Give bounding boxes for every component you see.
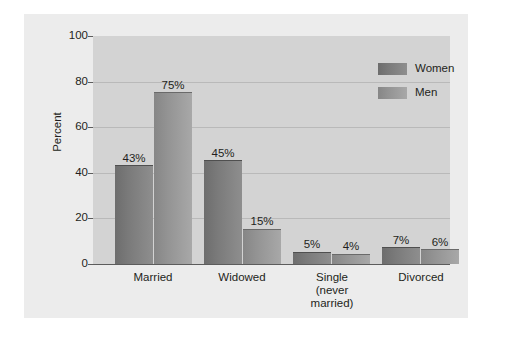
bar-men-widowed — [243, 229, 281, 264]
bar-chart-figure: 100 80 60 40 20 0 Percent 43% 75% 45% 15… — [0, 0, 509, 348]
value-label-women-single: 5% — [304, 239, 321, 251]
y-tick-label-20: 20 — [54, 213, 88, 225]
value-label-men-divorced: 6% — [432, 237, 449, 249]
legend-swatch-women-icon — [378, 63, 407, 75]
bar-women-single — [293, 252, 331, 264]
y-axis-label: Percent — [51, 72, 63, 192]
bar-men-divorced — [421, 249, 459, 264]
y-tick-label-0: 0 — [54, 258, 88, 270]
bar-women-divorced — [382, 247, 420, 264]
y-tick-label-100: 100 — [54, 30, 88, 42]
bar-men-married — [154, 92, 192, 264]
x-category-label-divorced: Divorced — [366, 271, 476, 284]
bar-men-single — [332, 254, 370, 264]
gridline-60 — [93, 127, 450, 128]
y-tick-mark-60 — [88, 127, 93, 128]
legend-label-women: Women — [415, 63, 454, 75]
legend-swatch-men-icon — [378, 87, 407, 99]
y-tick-mark-0 — [88, 264, 93, 265]
value-label-women-divorced: 7% — [393, 235, 410, 247]
y-tick-mark-40 — [88, 173, 93, 174]
x-axis-line — [93, 264, 450, 265]
value-label-women-married: 43% — [122, 153, 145, 165]
value-label-men-widowed: 15% — [250, 216, 273, 228]
legend-label-men: Men — [415, 87, 437, 99]
bar-women-widowed — [204, 160, 242, 264]
y-tick-mark-80 — [88, 82, 93, 83]
value-label-women-widowed: 45% — [211, 148, 234, 160]
legend-item-women: Women — [378, 60, 454, 78]
legend: Women Men — [378, 60, 454, 108]
y-tick-mark-100 — [88, 36, 93, 37]
bar-women-married — [115, 165, 153, 264]
value-label-men-married: 75% — [161, 80, 184, 92]
y-tick-mark-20 — [88, 218, 93, 219]
value-label-men-single: 4% — [343, 241, 360, 253]
legend-item-men: Men — [378, 84, 454, 102]
